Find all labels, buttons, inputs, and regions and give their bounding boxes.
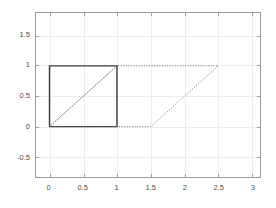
y-tick-label-4: 1.5 [20,31,30,39]
x-tick-label-0: 0 [47,184,51,192]
plot-axes-box [35,12,261,178]
x-tick-label-1: 0.5 [77,184,87,192]
figure-container: 00.511.522.53 -0.500.511.5 [0,0,276,208]
y-tick-label-1: 0 [26,123,30,131]
y-tick-label-2: 0.5 [20,92,30,100]
x-tick-label-2: 1 [115,184,119,192]
x-tick-label-5: 2.5 [214,184,224,192]
x-tick-label-3: 1.5 [146,184,156,192]
x-tick-label-4: 2 [183,184,187,192]
y-tick-label-3: 1 [26,62,30,70]
x-tick-label-6: 3 [251,184,255,192]
tick-marks-layer [36,13,260,177]
y-tick-label-0: -0.5 [17,154,30,162]
